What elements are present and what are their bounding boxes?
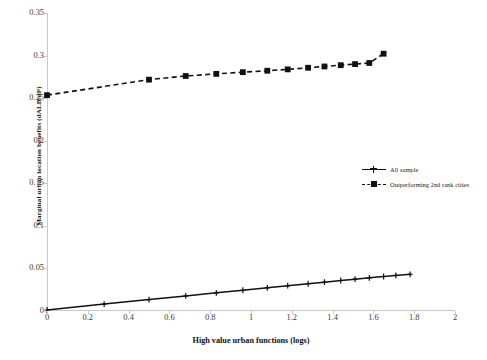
x-tick-label: 1.6 [368, 314, 378, 322]
data-point-marker [214, 290, 219, 296]
y-tick-label: 0.2 [18, 137, 44, 145]
y-tick-label: 0 [18, 307, 44, 315]
legend-label: Outperforming 2nd rank cities [390, 181, 469, 188]
y-tick-mark [44, 183, 47, 184]
y-tick-label: 0.35 [18, 9, 44, 17]
x-tick-label: 0.2 [83, 314, 93, 322]
legend-cross-marker-icon-bar [370, 168, 377, 169]
data-point-marker [285, 283, 290, 289]
data-point-marker [367, 275, 372, 281]
x-tick-label: 1.2 [287, 314, 297, 322]
chart-figure: Marginal urban location benefits (dALB/d… [0, 0, 487, 360]
data-point-marker [146, 77, 152, 83]
y-tick-mark [44, 226, 47, 227]
data-point-marker [306, 281, 311, 287]
data-point-marker [408, 271, 413, 277]
data-point-marker [183, 293, 188, 299]
data-point-marker [147, 297, 152, 303]
data-point-marker [322, 64, 328, 70]
y-tick-label: 0.25 [18, 94, 44, 102]
plot-area [47, 13, 455, 311]
data-point-marker [322, 279, 327, 285]
y-tick-label: 0.3 [18, 52, 44, 60]
legend-item[interactable]: All sample [362, 163, 487, 175]
y-axis-tick-labels: 00.050.10.150.20.250.30.35 [14, 0, 44, 360]
data-point-marker [213, 71, 219, 77]
legend-label: All sample [390, 166, 418, 173]
y-tick-label: 0.05 [18, 264, 44, 272]
chart-legend: All sampleOutperforming 2nd rank cities [362, 163, 487, 193]
data-point-marker [240, 287, 245, 293]
y-tick-mark [44, 268, 47, 269]
data-point-marker [338, 62, 344, 68]
legend-item[interactable]: Outperforming 2nd rank cities [362, 178, 487, 190]
x-tick-label: 0.4 [123, 314, 133, 322]
x-tick-label: 1.4 [327, 314, 337, 322]
x-tick-label: 2 [453, 314, 457, 322]
x-tick-label: 0.8 [205, 314, 215, 322]
series-2 [44, 51, 386, 98]
data-point-marker [352, 61, 358, 67]
x-tick-label: 0 [45, 314, 49, 322]
data-point-marker [265, 285, 270, 291]
data-point-marker [183, 73, 189, 79]
data-point-marker [264, 68, 270, 74]
y-tick-mark [44, 98, 47, 99]
legend-square-marker-icon [371, 181, 377, 187]
data-point-marker [305, 65, 311, 71]
data-point-marker [381, 51, 387, 57]
x-axis-title: High value urban functions (logs) [47, 336, 455, 345]
y-tick-label: 0.15 [18, 179, 44, 187]
data-point-marker [366, 60, 372, 66]
y-tick-label: 0.1 [18, 222, 44, 230]
y-tick-mark [44, 56, 47, 57]
data-series-layer [47, 13, 455, 311]
x-tick-label: 0.6 [164, 314, 174, 322]
data-point-marker [393, 273, 398, 279]
y-tick-mark [44, 13, 47, 14]
series-1 [45, 271, 413, 312]
data-point-marker [353, 276, 358, 282]
data-point-marker [240, 69, 246, 75]
x-axis-tick-labels: 00.20.40.60.811.21.41.61.82 [47, 314, 455, 328]
x-tick-label: 1.8 [409, 314, 419, 322]
legend-dashed-line-icon [362, 179, 386, 189]
data-point-marker [381, 274, 386, 280]
data-point-marker [285, 66, 291, 72]
data-point-marker [102, 301, 107, 307]
x-tick-label: 1 [249, 314, 253, 322]
legend-solid-line-icon [362, 164, 386, 174]
data-point-marker [338, 278, 343, 284]
y-tick-mark [44, 141, 47, 142]
